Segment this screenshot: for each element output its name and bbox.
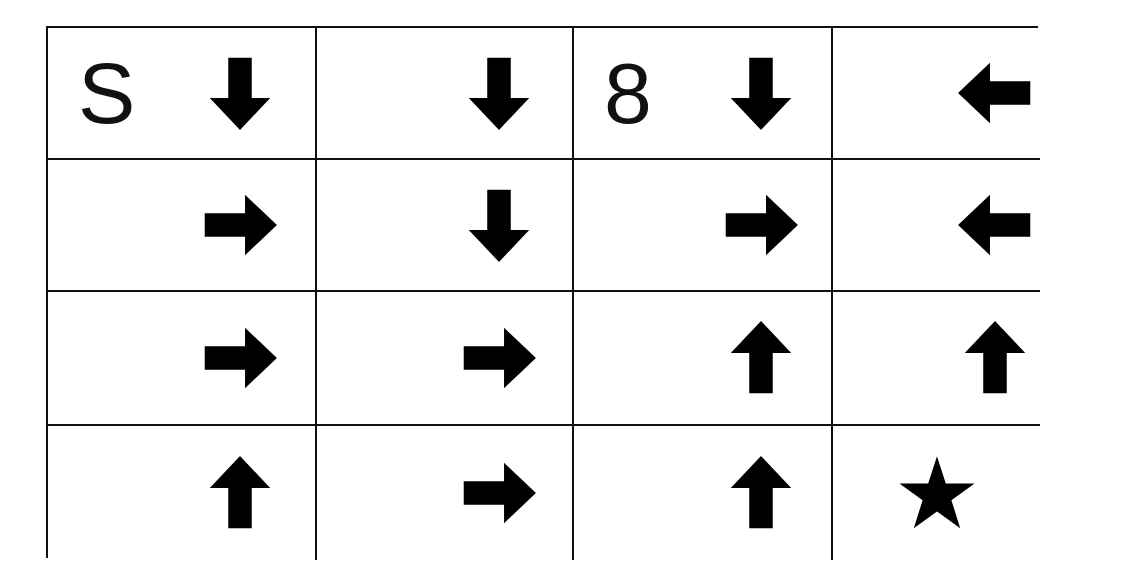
arrow-up-icon — [719, 316, 803, 400]
arrow-up-icon — [198, 451, 282, 535]
arrow-up-icon — [719, 451, 803, 535]
arrow-down-icon — [457, 51, 541, 135]
grid-cell-r1-c4[interactable] — [833, 28, 1040, 160]
grid-cell-r3-c4[interactable] — [833, 292, 1040, 426]
grid-cell-r4-c3[interactable] — [574, 426, 833, 560]
arrow-left-icon — [953, 51, 1037, 135]
grid-cell-r3-c2[interactable] — [317, 292, 574, 426]
arrow-right-icon — [457, 451, 541, 535]
arrow-down-icon — [719, 51, 803, 135]
grid-cell-r1-c3[interactable]: 8 — [574, 28, 833, 160]
grid-cell-r4-c2[interactable] — [317, 426, 574, 560]
arrow-left-icon — [953, 183, 1037, 267]
arrow-right-icon — [198, 316, 282, 400]
grid-board: S8 — [46, 26, 1038, 558]
cell-label: 8 — [604, 50, 652, 136]
grid-cell-r4-c1[interactable] — [48, 426, 317, 560]
grid-cell-r4-c4[interactable] — [833, 426, 1040, 560]
grid-cell-r2-c2[interactable] — [317, 160, 574, 292]
grid-cell-r1-c2[interactable] — [317, 28, 574, 160]
star-icon — [897, 453, 977, 533]
grid-cell-r2-c1[interactable] — [48, 160, 317, 292]
arrow-right-icon — [719, 183, 803, 267]
cell-label: S — [78, 50, 135, 136]
grid-cell-r2-c4[interactable] — [833, 160, 1040, 292]
arrow-down-icon — [198, 51, 282, 135]
grid-cell-r1-c1[interactable]: S — [48, 28, 317, 160]
arrow-right-icon — [198, 183, 282, 267]
arrow-down-icon — [457, 183, 541, 267]
grid-cell-r3-c1[interactable] — [48, 292, 317, 426]
arrow-up-icon — [953, 316, 1037, 400]
arrow-right-icon — [457, 316, 541, 400]
grid-cell-r3-c3[interactable] — [574, 292, 833, 426]
grid-cell-r2-c3[interactable] — [574, 160, 833, 292]
